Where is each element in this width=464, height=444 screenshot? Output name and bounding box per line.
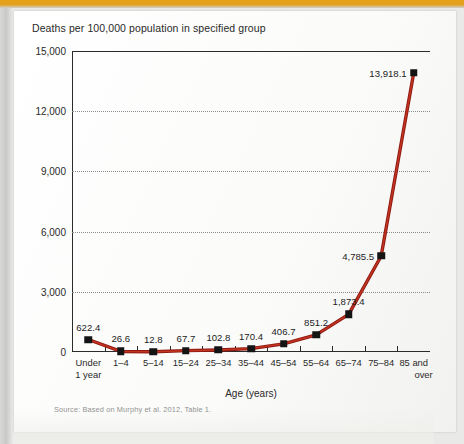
plot-area: 03,0006,0009,00012,00015,000 Under1 year…	[72, 51, 430, 352]
series-line	[72, 51, 430, 352]
data-point-marker	[280, 340, 288, 348]
data-point-marker	[312, 331, 320, 339]
x-axis-category-label: 65–74	[336, 357, 362, 369]
y-axis-tick-label: 9,000	[41, 166, 66, 177]
data-point-marker	[182, 347, 190, 355]
x-axis-category-label: 75–84	[368, 357, 394, 369]
data-point-marker	[247, 345, 255, 353]
x-axis-category-label: 5–14	[143, 357, 164, 369]
x-axis-category-label: 1–4	[113, 357, 129, 369]
data-point-label: 12.8	[144, 334, 163, 345]
y-axis-tick-label: 0	[60, 347, 66, 358]
scanned-page: Deaths per 100,000 population in specifi…	[0, 0, 464, 444]
data-point-marker	[150, 348, 158, 356]
data-point-label: 102.8	[206, 332, 230, 343]
data-point-label: 4,785.5	[342, 250, 374, 261]
x-axis-category-label: 55–64	[303, 357, 329, 369]
data-point-marker	[410, 69, 418, 77]
data-point-marker	[117, 348, 125, 356]
data-point-marker	[85, 336, 93, 344]
x-axis-category-label: 85 andover	[395, 357, 433, 380]
figure-sheet: Deaths per 100,000 population in specifi…	[14, 11, 456, 432]
data-point-label: 67.7	[177, 333, 196, 344]
y-axis-tick-label: 6,000	[41, 226, 66, 237]
x-axis-category-label: 45–54	[270, 357, 296, 369]
y-axis-tick-label: 3,000	[41, 286, 66, 297]
data-point-label: 13,918.1	[369, 67, 406, 78]
data-point-label: 26.6	[111, 333, 130, 344]
x-axis-title: Age (years)	[225, 388, 277, 399]
y-axis-tick-label: 15,000	[35, 46, 66, 57]
data-point-marker	[377, 252, 385, 260]
y-axis-tick-label: 12,000	[35, 106, 66, 117]
x-axis-category-label: 15–24	[173, 357, 199, 369]
x-axis-category-label: 35–44	[238, 357, 264, 369]
data-point-label: 851.2	[304, 317, 328, 328]
page-accent-bar	[0, 0, 464, 8]
data-point-label: 622.4	[76, 322, 100, 333]
data-point-marker	[215, 346, 223, 354]
data-point-marker	[345, 311, 353, 319]
line-chart-figure: Deaths per 100,000 population in specifi…	[14, 11, 456, 432]
data-point-label: 170.4	[239, 331, 263, 342]
source-note: Source: Based on Murphy et al. 2012, Tab…	[54, 405, 211, 414]
x-axis-category-label: Under1 year	[69, 357, 107, 380]
data-point-label: 406.7	[272, 326, 296, 337]
page-gutter	[0, 8, 14, 444]
chart-y-axis-title: Deaths per 100,000 population in specifi…	[32, 22, 266, 34]
data-point-label: 1,873.4	[333, 296, 365, 307]
x-axis-category-label: 25–34	[205, 357, 231, 369]
